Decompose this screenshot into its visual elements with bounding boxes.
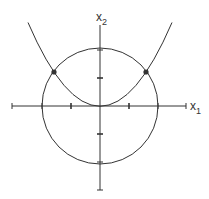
x2-axis-label: x2 xyxy=(96,10,107,27)
intersection-point-right xyxy=(143,69,148,74)
x1-axis-label: x1 xyxy=(190,99,201,116)
intersection-point-left xyxy=(51,69,56,74)
diagram-canvas: x2 x1 xyxy=(0,0,209,199)
